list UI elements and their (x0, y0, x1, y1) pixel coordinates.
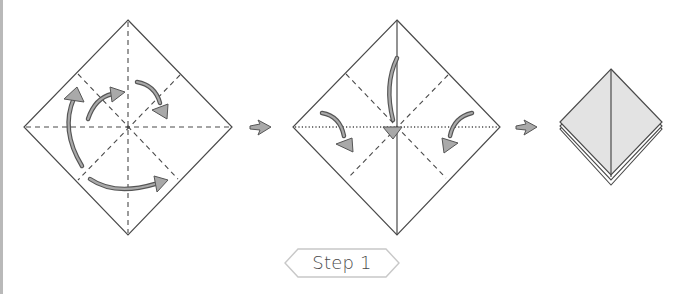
curved-arrow-icon (322, 113, 353, 152)
center-point (126, 125, 129, 128)
panel-3-result (560, 69, 662, 185)
panel-1-diamond (24, 20, 232, 235)
next-step-arrow-icon (250, 120, 271, 135)
curved-arrow-icon (442, 113, 472, 153)
panel-2-diamond (293, 20, 500, 235)
next-step-arrow-icon (516, 120, 537, 135)
step-label-text: Step 1 (284, 248, 400, 278)
step-label: Step 1 (284, 248, 400, 278)
curved-arrow-icon (90, 176, 168, 192)
curved-arrow-icon (137, 82, 168, 119)
curved-arrow-icon (383, 58, 402, 139)
crease-diagonal-1 (346, 74, 446, 178)
curved-arrow-icon (88, 87, 125, 119)
